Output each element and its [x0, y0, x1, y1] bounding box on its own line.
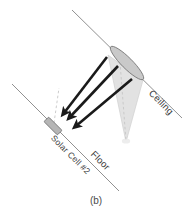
optical-ray-diagram-figure: Ceiling Floor Solar Cell #2 (b) [0, 0, 193, 214]
solar-cell-shape [44, 117, 62, 135]
solar-cell-normal-dashed-line [54, 88, 59, 123]
ceiling-label: Ceiling [147, 87, 176, 116]
figure-caption: (b) [90, 195, 102, 206]
floor-line [12, 84, 119, 191]
solar-cell-label: Solar Cell #2 [49, 133, 92, 176]
diagram-canvas: Ceiling Floor Solar Cell #2 (b) [0, 0, 193, 214]
